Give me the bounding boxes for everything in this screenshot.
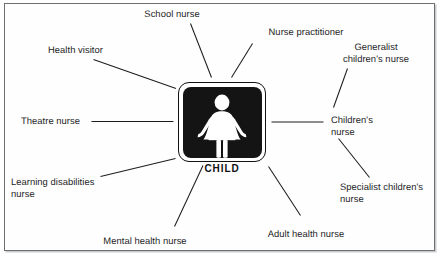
connector-learning-disabilities-nurse [101, 159, 176, 177]
child-icon [178, 82, 266, 162]
label-school-nurse: School nurse [137, 8, 207, 20]
label-nurse-practitioner: Nurse practitioner [256, 26, 356, 38]
diagram-figure: CHILD School nurse Nurse practitioner Ge… [0, 0, 442, 258]
connector-health-visitor [94, 60, 177, 89]
label-generalist-childrens-nurse: Generalist children's nurse [330, 41, 422, 64]
connector-generalist-childrens-nurse [334, 69, 348, 108]
label-childrens-nurse: Children's nurse [331, 114, 397, 137]
connector-adult-health-nurse [269, 167, 301, 216]
label-adult-health-nurse: Adult health nurse [256, 228, 356, 240]
connector-specialist-childrens-nurse [339, 139, 370, 178]
label-health-visitor: Health visitor [48, 44, 124, 56]
connector-school-nurse [191, 24, 212, 78]
connector-nurse-practitioner [232, 44, 253, 78]
label-theatre-nurse: Theatre nurse [21, 115, 99, 127]
label-learning-disabilities-nurse: Learning disabilities nurse [11, 176, 117, 199]
connector-mental-health-nurse [175, 166, 204, 227]
label-mental-health-nurse: Mental health nurse [92, 235, 198, 247]
child-pictogram-glyph [178, 82, 266, 162]
label-specialist-childrens-nurse: Specialist children's nurse [340, 181, 436, 204]
child-caption: CHILD [178, 163, 266, 174]
